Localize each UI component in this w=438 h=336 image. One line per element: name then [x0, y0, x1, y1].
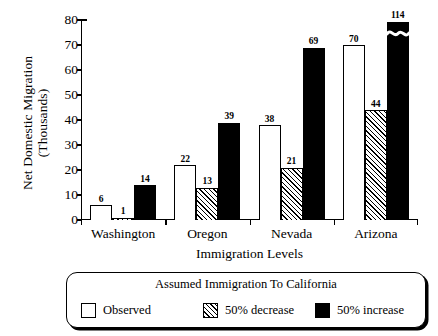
bar: 22	[174, 165, 196, 220]
legend-title: Assumed Immigration To California	[67, 277, 425, 292]
bar: 39	[218, 123, 240, 221]
y-axis-tick-label: 80	[52, 13, 78, 27]
bar-value-label: 44	[371, 99, 381, 109]
x-axis-title: Immigration Levels	[81, 246, 418, 261]
bar-value-label: 1	[121, 206, 126, 216]
legend-swatch-increase	[315, 303, 330, 318]
y-axis-tick-label: 40	[52, 113, 78, 127]
bar-value-label: 13	[203, 176, 213, 186]
x-axis-category-label: Arizona	[334, 226, 418, 241]
bar-chart: Net Domestic Migration (Thousands) 01020…	[0, 0, 438, 336]
y-axis-tick	[77, 119, 82, 120]
legend-item[interactable]: Observed	[81, 299, 151, 321]
bar: 44	[365, 110, 387, 220]
x-axis-tick	[81, 219, 82, 225]
y-axis-tick-label: 50	[52, 88, 78, 102]
bar-value-label: 39	[225, 111, 235, 121]
bar-value-label: 6	[99, 194, 104, 204]
y-axis-tick	[77, 144, 82, 145]
legend-item[interactable]: 50% increase	[315, 299, 404, 321]
y-axis-tick	[77, 194, 82, 195]
y-axis-tick-label: 10	[52, 188, 78, 202]
y-axis-tick-label: 0	[52, 213, 78, 227]
bar: 1	[112, 218, 134, 221]
x-axis-tick	[334, 219, 335, 225]
y-axis-title-line-2: (Thousands)	[35, 25, 50, 221]
bar-value-label: 38	[265, 114, 275, 124]
bar-value-label: 14	[140, 174, 150, 184]
bar: 21	[281, 168, 303, 221]
bar-value-label: 114	[391, 10, 405, 20]
bar: 14	[134, 185, 156, 220]
bar: 69	[303, 48, 325, 221]
y-axis-tick	[77, 19, 87, 20]
legend-item-label: Observed	[103, 303, 151, 317]
y-axis-tick-label: 60	[52, 63, 78, 77]
legend-swatch-decrease	[203, 303, 218, 318]
y-axis-tick	[77, 69, 82, 70]
y-axis-title: Net Domestic Migration (Thousands)	[20, 25, 50, 221]
legend-item-label: 50% decrease	[225, 303, 294, 317]
legend-item[interactable]: 50% decrease	[203, 299, 294, 321]
legend: Assumed Immigration To California Observ…	[66, 272, 426, 328]
y-axis-tick-label: 70	[52, 38, 78, 52]
y-axis-tick-label: 20	[52, 163, 78, 177]
x-axis-tick	[250, 219, 251, 225]
plot-area: 61142213393821697044114	[81, 20, 418, 220]
x-axis-category-label: Oregon	[165, 226, 249, 241]
y-axis-tick-label: 30	[52, 138, 78, 152]
y-axis-tick	[77, 94, 82, 95]
x-axis-category-label: Washington	[81, 226, 165, 241]
bar: 114	[387, 22, 409, 221]
legend-item-label: 50% increase	[337, 303, 404, 317]
legend-items: Observed50% decrease50% increase	[67, 299, 425, 323]
legend-swatch-observed	[81, 303, 96, 318]
axis-break-icon	[387, 28, 409, 39]
bar: 13	[196, 188, 218, 221]
bar: 38	[259, 125, 281, 220]
bar: 70	[343, 45, 365, 220]
bar-value-label: 70	[349, 34, 359, 44]
x-axis-category-label: Nevada	[250, 226, 334, 241]
y-axis-tick	[77, 44, 82, 45]
x-axis-tick	[417, 219, 418, 225]
bar-value-label: 69	[309, 36, 319, 46]
y-axis-title-line-1: Net Domestic Migration	[20, 56, 35, 190]
bar: 6	[90, 205, 112, 220]
x-axis-tick	[165, 219, 166, 225]
y-axis-tick	[77, 169, 82, 170]
bar-value-label: 21	[287, 156, 297, 166]
bar-value-label: 22	[181, 154, 191, 164]
